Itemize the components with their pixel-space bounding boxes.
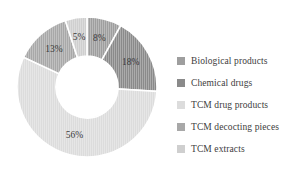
slice-value-label: 56%: [66, 130, 84, 140]
legend-swatch-icon: [177, 101, 185, 109]
slice-value-label: 13%: [45, 44, 63, 54]
legend-item-label: Chemical drugs: [191, 78, 252, 88]
legend-item[interactable]: TCM extracts: [177, 138, 291, 160]
legend-item-label: TCM extracts: [191, 144, 245, 154]
chart-legend: Biological productsChemical drugsTCM dru…: [177, 50, 291, 160]
legend-swatch-icon: [177, 79, 185, 87]
slice-value-label: 18%: [122, 57, 140, 67]
chart-figure: 8%18%56%13%5% Biological productsChemica…: [0, 0, 293, 169]
legend-item-label: TCM drug products: [191, 100, 268, 110]
legend-item[interactable]: Biological products: [177, 50, 291, 72]
legend-item-label: Biological products: [191, 56, 268, 66]
donut-slice-texture: [17, 17, 157, 157]
legend-item[interactable]: TCM decocting pieces: [177, 116, 291, 138]
donut-chart-svg: 8%18%56%13%5%: [16, 16, 158, 158]
slice-value-label: 8%: [93, 33, 106, 43]
legend-swatch-icon: [177, 57, 185, 65]
legend-swatch-icon: [177, 145, 185, 153]
legend-swatch-icon: [177, 123, 185, 131]
legend-item-label: TCM decocting pieces: [191, 122, 279, 132]
legend-item[interactable]: TCM drug products: [177, 94, 291, 116]
donut-chart: 8%18%56%13%5%: [16, 16, 158, 158]
legend-item[interactable]: Chemical drugs: [177, 72, 291, 94]
slice-value-label: 5%: [73, 32, 86, 42]
